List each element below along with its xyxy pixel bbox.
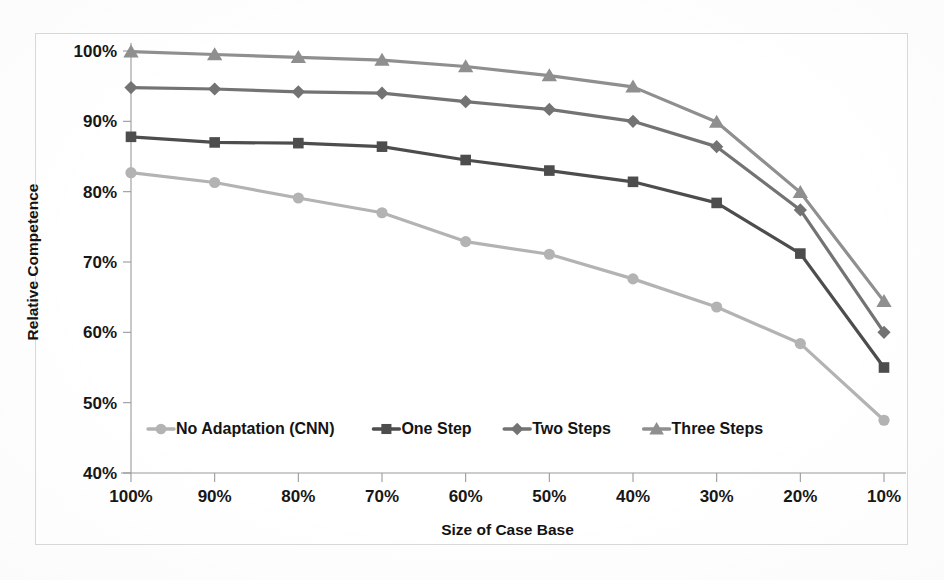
- data-point-circle-marker: [125, 167, 136, 178]
- data-point-square-marker: [544, 165, 555, 176]
- legend-item-two-steps[interactable]: Two Steps: [504, 420, 611, 437]
- legend-item-no-adaptation-cnn[interactable]: No Adaptation (CNN): [148, 420, 335, 437]
- data-point-square-marker: [377, 141, 388, 152]
- legend-item-label: Three Steps: [672, 420, 764, 437]
- data-point-diamond-marker: [124, 81, 137, 94]
- data-point-square-marker: [209, 137, 220, 148]
- x-axis-tick-label: 20%: [783, 487, 817, 506]
- x-axis-tick-label: 90%: [198, 487, 232, 506]
- data-point-square-marker: [628, 177, 639, 188]
- series-three-steps: [123, 44, 891, 307]
- legend-item-label: One Step: [401, 420, 471, 437]
- data-point-diamond-marker: [208, 82, 221, 95]
- data-point-circle-marker: [460, 236, 471, 247]
- data-point-circle-marker: [711, 301, 722, 312]
- data-point-circle-marker: [544, 249, 555, 260]
- y-axis-tick-label: 80%: [83, 183, 117, 202]
- series-no-adaptation-cnn: [125, 167, 889, 426]
- legend-item-label: No Adaptation (CNN): [176, 420, 335, 437]
- series-line: [131, 88, 884, 333]
- y-axis-tick-label: 90%: [83, 112, 117, 131]
- series-two-steps: [124, 81, 890, 339]
- series-one-step: [126, 132, 890, 373]
- y-axis-tick-label: 50%: [83, 394, 117, 413]
- series-line: [131, 173, 884, 421]
- data-point-circle-marker: [376, 207, 387, 218]
- legend-item-label: Two Steps: [532, 420, 611, 437]
- data-point-diamond-marker: [543, 103, 556, 116]
- y-axis-title: Relative Competence: [24, 183, 41, 340]
- data-point-circle-marker: [878, 415, 889, 426]
- data-point-circle-marker: [156, 424, 167, 435]
- data-point-square-marker: [293, 138, 304, 149]
- data-point-square-marker: [795, 248, 806, 259]
- y-axis-tick-label: 40%: [83, 464, 117, 483]
- data-point-circle-marker: [293, 192, 304, 203]
- data-point-diamond-marker: [375, 87, 388, 100]
- data-point-diamond-marker: [292, 85, 305, 98]
- x-axis-tick-label: 30%: [700, 487, 734, 506]
- data-point-square-marker: [879, 362, 890, 373]
- data-point-square-marker: [126, 132, 137, 143]
- data-point-diamond-marker: [459, 95, 472, 108]
- chart-container: 40%50%60%70%80%90%100%100%90%80%70%60%50…: [0, 0, 944, 580]
- data-point-circle-marker: [795, 338, 806, 349]
- x-axis-tick-label: 100%: [109, 487, 152, 506]
- y-axis-tick-label: 100%: [74, 42, 117, 61]
- data-point-diamond-marker: [511, 423, 524, 436]
- x-axis-tick-label: 10%: [867, 487, 901, 506]
- x-axis-tick-label: 60%: [449, 487, 483, 506]
- data-point-diamond-marker: [626, 115, 639, 128]
- x-axis-tick-label: 40%: [616, 487, 650, 506]
- line-chart-plot: 40%50%60%70%80%90%100%100%90%80%70%60%50…: [0, 0, 944, 580]
- x-axis-title: Size of Case Base: [441, 521, 574, 538]
- data-point-circle-marker: [627, 273, 638, 284]
- legend-item-one-step[interactable]: One Step: [373, 420, 471, 437]
- data-point-square-marker: [381, 424, 391, 434]
- data-point-circle-marker: [209, 177, 220, 188]
- legend-item-three-steps[interactable]: Three Steps: [644, 420, 764, 437]
- x-axis-tick-label: 50%: [532, 487, 566, 506]
- y-axis-tick-label: 60%: [83, 323, 117, 342]
- data-point-square-marker: [460, 155, 471, 166]
- series-line: [131, 137, 884, 368]
- x-axis-tick-label: 70%: [365, 487, 399, 506]
- data-point-square-marker: [711, 198, 722, 209]
- x-axis-tick-label: 80%: [281, 487, 315, 506]
- y-axis-tick-label: 70%: [83, 253, 117, 272]
